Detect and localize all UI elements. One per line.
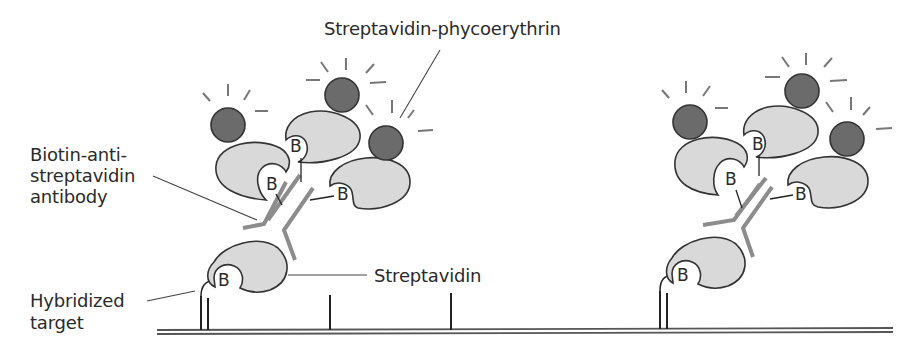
right-complex: B B B B (660, 53, 892, 291)
biotin-glyph: B (337, 184, 349, 204)
left-complex: B B B B (201, 58, 433, 296)
label-biotin-anti-line3: antibody (30, 187, 107, 207)
biotin-glyph: B (266, 174, 278, 194)
phycoerythrin (325, 78, 359, 112)
label-biotin-anti-line1: Biotin-anti- (30, 145, 127, 165)
biotin-glyph: B (725, 169, 737, 189)
surface-probes (201, 291, 667, 330)
phycoerythrin (211, 108, 245, 142)
biotin-glyph: B (218, 270, 230, 290)
label-biotin-anti-line2: streptavidin (30, 166, 135, 186)
diagram-canvas: B B B B B (0, 0, 915, 351)
phycoerythrin (830, 122, 864, 156)
biotin-glyph: B (290, 136, 302, 156)
label-streptavidin-phycoerythrin: Streptavidin-phycoerythrin (324, 19, 561, 39)
label-hybridized-target-line1: Hybridized (30, 291, 124, 311)
biotin-glyph: B (752, 134, 764, 154)
biotin-glyph: B (677, 265, 689, 285)
phycoerythrin (785, 74, 819, 108)
phycoerythrin (673, 105, 707, 139)
biotin-glyph: B (795, 184, 807, 204)
array-surface (157, 328, 893, 334)
label-hybridized-target-line2: target (30, 313, 84, 333)
label-streptavidin: Streptavidin (374, 266, 481, 286)
phycoerythrin (369, 126, 403, 160)
